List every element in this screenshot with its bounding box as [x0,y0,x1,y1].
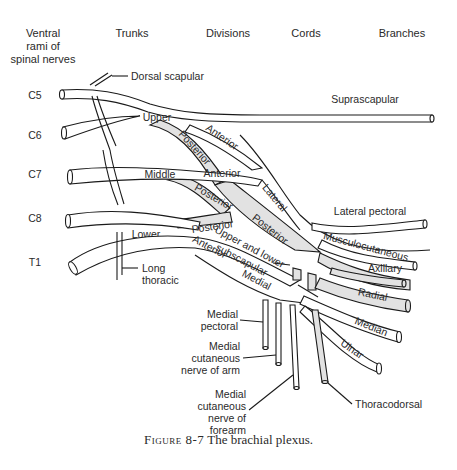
header-trunks: Trunks [115,27,149,39]
label-long-thoracic-1: Long [142,262,166,274]
label-lateral-pectoral: Lateral pectoral [334,205,406,217]
label-mcna-1: Medial [209,340,240,352]
label-mcna-3: nerve of arm [181,364,240,376]
column-headers: Ventral rami of spinal nerves Trunks Div… [11,27,426,65]
root-labels: C5 C6 C7 C8 T1 [28,89,42,268]
brachial-plexus-diagram: Ventral rami of spinal nerves Trunks Div… [0,0,457,470]
label-middle-anterior: Anterior [204,167,241,179]
root-c6: C6 [28,129,42,141]
root-t1: T1 [29,256,41,268]
label-mcnf-3: nerve of [208,412,246,424]
header-ventral-rami-2: rami of [26,40,61,52]
root-c5: C5 [28,89,42,101]
label-suprascapular: Suprascapular [331,93,399,105]
medial-branches [263,300,328,390]
label-medial-pectoral-2: pectoral [201,320,238,332]
label-axillary: Axillary [368,262,403,274]
label-mcnf-2: cutaneous [198,400,246,412]
trunk-middle: Middle [145,168,176,180]
header-cords: Cords [291,27,321,39]
dorsal-scapular-branch: Dorsal scapular [90,70,204,86]
figure-caption: Figure 8-7 The brachial plexus. [0,432,457,448]
label-mcnf-1: Medial [215,388,246,400]
label-thoracodorsal: Thoracodorsal [355,398,422,410]
label-mcna-2: cutaneous [192,352,240,364]
label-dorsal-scapular: Dorsal scapular [131,70,204,82]
header-branches: Branches [379,27,426,39]
figure-caption-text: The brachial plexus. [207,432,313,447]
figure-number: Figure 8-7 [144,432,204,447]
c7-root-middle-trunk: Middle Anterior Posterior [68,150,263,212]
header-divisions: Divisions [206,27,251,39]
root-c8: C8 [28,212,42,224]
header-ventral-rami-1: Ventral [26,27,60,39]
label-medial-pectoral-1: Medial [207,308,238,320]
medial-pectoral-label: Medial pectoral [201,308,263,332]
medial-cutaneous-arm-label: Medial cutaneous nerve of arm [181,340,276,376]
trunk-upper: Upper [143,111,172,123]
thoracodorsal-label: Thoracodorsal [328,383,422,410]
label-long-thoracic-2: thoracic [142,274,179,286]
header-ventral-rami-3: spinal nerves [11,53,76,65]
label-median: Median [353,314,390,338]
medial-cutaneous-forearm-label: Medial cutaneous nerve of forearm [198,375,293,436]
root-c7: C7 [28,168,42,180]
